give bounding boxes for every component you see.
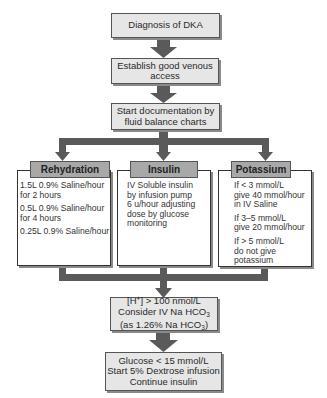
potassium-item-2: If 3–5 mmol/L give 20 mmol/hour bbox=[234, 214, 312, 233]
insulin-line2: by infusion pump bbox=[127, 190, 192, 200]
rehydration-text: 1.5L 0.9% Saline/hour for 2 hours 0.5L 0… bbox=[20, 181, 112, 241]
bicarbonate-line3: (as 1.26% Na HCO3) bbox=[120, 320, 208, 334]
insulin-text: IV Soluble insulin by infusion pump 6 u/… bbox=[127, 181, 211, 233]
rehydration-item-1-line1: 1.5L 0.9% Saline/hour bbox=[20, 180, 104, 190]
rehydration-item-3-line1: 0.25L 0.9% Saline/hour bbox=[20, 226, 109, 236]
header-potassium: Potassium bbox=[231, 161, 291, 178]
potassium-item-2-line1: If 3–5 mmol/L bbox=[234, 213, 286, 223]
potassium-item-3-line2: do not give bbox=[234, 246, 276, 256]
potassium-item-2-line2: give 20 mmol/hour bbox=[234, 222, 305, 232]
potassium-item-3-line3: potassium bbox=[234, 255, 273, 265]
step-venous-line2: access bbox=[150, 71, 180, 82]
rehydration-item-1: 1.5L 0.9% Saline/hour for 2 hours bbox=[20, 181, 112, 200]
rehydration-item-2: 0.5L 0.9% Saline/hour for 4 hours bbox=[20, 204, 112, 223]
header-rehydration: Rehydration bbox=[30, 161, 110, 178]
potassium-item-1: If < 3 mmol/L give 40 mmol/hour in IV Sa… bbox=[234, 181, 312, 210]
insulin-line5: monitoring bbox=[127, 218, 167, 228]
potassium-text: If < 3 mmol/L give 40 mmol/hour in IV Sa… bbox=[234, 181, 312, 270]
rehydration-item-2-line1: 0.5L 0.9% Saline/hour bbox=[20, 203, 104, 213]
step-documentation-line2: fluid balance charts bbox=[125, 117, 207, 128]
bicarbonate-line2: Consider IV Na HCO3 bbox=[118, 307, 210, 321]
potassium-item-1-line1: If < 3 mmol/L bbox=[234, 180, 284, 190]
step-diagnosis-text: Diagnosis of DKA bbox=[128, 20, 202, 31]
insulin-line3: 6 u/hour adjusting bbox=[127, 199, 195, 209]
step-documentation-line1: Start documentation by bbox=[117, 106, 215, 117]
header-potassium-label: Potassium bbox=[236, 164, 287, 175]
potassium-item-1-line2: give 40 mmol/hour bbox=[234, 190, 305, 200]
potassium-item-1-line3: in IV Saline bbox=[234, 199, 277, 209]
header-insulin: Insulin bbox=[130, 161, 198, 178]
rehydration-item-2-line2: for 4 hours bbox=[20, 213, 61, 223]
step-glucose: Glucose < 15 mmol/L Start 5% Dextrose in… bbox=[105, 352, 222, 391]
step-venous-access: Establish good venous access bbox=[111, 58, 219, 84]
potassium-item-3: If > 5 mmol/L do not give potassium bbox=[234, 237, 312, 266]
step-bicarbonate: [H+] > 100 nmol/L Consider IV Na HCO3 (a… bbox=[110, 297, 218, 331]
rehydration-item-1-line2: for 2 hours bbox=[20, 190, 61, 200]
insulin-item-1: IV Soluble insulin by infusion pump 6 u/… bbox=[127, 181, 211, 229]
header-rehydration-label: Rehydration bbox=[41, 164, 99, 175]
insulin-line4: dose by glucose bbox=[127, 209, 189, 219]
step-diagnosis: Diagnosis of DKA bbox=[111, 13, 220, 38]
rehydration-item-3: 0.25L 0.9% Saline/hour bbox=[20, 227, 112, 237]
insulin-line1: IV Soluble insulin bbox=[127, 180, 193, 190]
header-insulin-label: Insulin bbox=[148, 164, 180, 175]
glucose-line3: Continue insulin bbox=[130, 377, 198, 388]
step-documentation: Start documentation by fluid balance cha… bbox=[111, 103, 220, 130]
potassium-item-3-line1: If > 5 mmol/L bbox=[234, 236, 284, 246]
